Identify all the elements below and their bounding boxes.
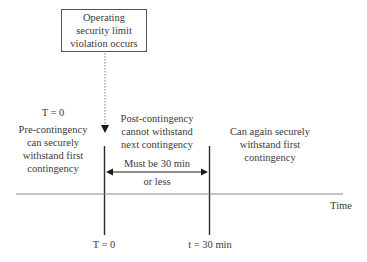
recovered-text: Can again securely withstand first conti… <box>220 125 320 164</box>
right-arrowhead-icon <box>201 169 208 176</box>
pre-contingency-line-1: Pre-contingency <box>3 123 103 136</box>
post-contingency-line-2: cannot withstand <box>107 125 207 138</box>
interval-text-bottom: or less <box>112 175 202 188</box>
recovered-line-2: withstand first <box>220 138 320 151</box>
post-contingency-line-3: next contingency <box>107 138 207 151</box>
interval-text-top: Must be 30 min <box>112 157 202 170</box>
marker-label-t30: t = 30 min <box>180 238 240 251</box>
post-contingency-line-1: Post-contingency <box>107 112 207 125</box>
pre-contingency-line-2: can securely <box>3 136 103 149</box>
axis-label-time: Time <box>326 199 356 212</box>
post-contingency-text: Post-contingency cannot withstand next c… <box>107 112 207 151</box>
pre-contingency-line-4: contingency <box>3 162 103 175</box>
pre-contingency-line-3: withstand first <box>3 149 103 162</box>
recovered-line-3: contingency <box>220 151 320 164</box>
event-box-line-2: security limit <box>76 24 132 37</box>
top-time-label: T = 0 <box>23 106 83 119</box>
event-box-line-3: violation occurs <box>70 37 137 50</box>
pre-contingency-text: Pre-contingency can securely withstand f… <box>3 123 103 175</box>
event-box-line-1: Operating <box>83 11 125 24</box>
marker-label-t0: T = 0 <box>79 238 129 251</box>
event-box: Operating security limit violation occur… <box>61 9 147 52</box>
recovered-line-1: Can again securely <box>220 125 320 138</box>
